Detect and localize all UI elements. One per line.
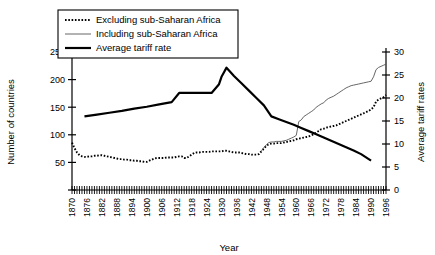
x-axis-tick-label: 1972	[321, 198, 331, 217]
x-axis-title: Year	[219, 242, 238, 253]
y-axis-left-tick-label: 100	[50, 130, 65, 140]
x-axis-tick-label: 1966	[306, 198, 316, 217]
y-axis-right: 051015202530	[382, 47, 404, 195]
x-axis: 1870187618821888189419001906191219181924…	[67, 186, 391, 217]
x-axis-tick-label: 1924	[202, 198, 212, 217]
y-axis-right-tick-label: 25	[394, 70, 404, 80]
x-axis-tick-label: 1870	[67, 198, 77, 217]
legend-label: Excluding sub-Saharan Africa	[96, 14, 221, 25]
y-axis-right-tick-label: 20	[394, 93, 404, 103]
x-axis-tick-label: 1912	[172, 198, 182, 217]
x-axis-tick-label: 1906	[157, 198, 167, 217]
y-axis-right-title: Average tariff rates	[415, 82, 426, 162]
x-axis-tick-label: 1900	[142, 198, 152, 217]
x-axis-tick-label: 1930	[217, 198, 227, 217]
y-axis-right-tick-label: 15	[394, 116, 404, 126]
y-axis-right-tick-label: 0	[394, 185, 399, 195]
y-axis-left-tick-label: 50	[55, 158, 65, 168]
y-axis-left: 50100150200250	[50, 47, 76, 190]
x-axis-tick-label: 1996	[381, 198, 391, 217]
x-axis-tick-label: 1978	[336, 198, 346, 217]
chart-legend: Excluding sub-Saharan AfricaIncluding su…	[58, 10, 238, 58]
x-axis-tick-label: 1936	[232, 198, 242, 217]
y-axis-left-tick-label: 150	[50, 103, 65, 113]
x-axis-tick-label: 1960	[291, 198, 301, 217]
x-axis-tick-label: 1942	[247, 198, 257, 217]
y-axis-right-tick-label: 5	[394, 162, 399, 172]
series-line	[84, 68, 371, 161]
legend-label: Including sub-Saharan Africa	[96, 28, 218, 39]
line-chart: 50100150200250 051015202530 187018761882…	[0, 0, 435, 255]
chart-container: 50100150200250 051015202530 187018761882…	[0, 0, 435, 255]
series-line	[72, 95, 386, 162]
series-layer	[72, 64, 386, 162]
x-axis-tick-label: 1894	[127, 198, 137, 217]
x-axis-tick-label: 1948	[262, 198, 272, 217]
x-axis-tick-label: 1888	[112, 198, 122, 217]
x-axis-tick-label: 1990	[366, 198, 376, 217]
x-axis-tick-label: 1918	[187, 198, 197, 217]
y-axis-right-tick-label: 30	[394, 47, 404, 57]
x-axis-tick-label: 1882	[97, 198, 107, 217]
x-axis-tick-label: 1876	[82, 198, 92, 217]
y-axis-left-tick-label: 200	[50, 75, 65, 85]
x-axis-tick-label: 1984	[351, 198, 361, 217]
y-axis-right-tick-label: 10	[394, 139, 404, 149]
x-axis-tick-label: 1954	[277, 198, 287, 217]
legend-label: Average tariff rate	[96, 42, 171, 53]
y-axis-left-title: Number of countries	[5, 79, 16, 165]
